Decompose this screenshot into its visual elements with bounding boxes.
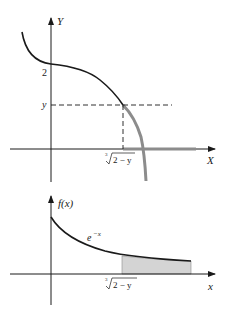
top-tick-2-label: 2: [42, 67, 47, 78]
top-y-axis-label: Y: [57, 15, 65, 27]
svg-text:−x: −x: [93, 230, 102, 238]
bottom-x-tick-cube-root-label: 3 2 − y: [105, 277, 137, 290]
top-x-tick-cube-root-label: 3 2 − y: [105, 152, 135, 165]
bottom-y-axis-label: f(x): [58, 197, 74, 210]
top-inverse-curve-highlight: [123, 105, 146, 181]
top-tick-y-label: y: [41, 99, 47, 110]
svg-text:e: e: [87, 232, 92, 243]
bottom-x-axis-label: x: [207, 280, 213, 292]
top-x-axis-label: X: [206, 154, 215, 166]
bottom-plot: f(x) x e −x 3 2 − y: [10, 196, 215, 305]
svg-text:3: 3: [105, 277, 108, 282]
top-plot: Y X 2 y 3 2 − y: [10, 15, 215, 182]
svg-text:2 − y: 2 − y: [113, 280, 132, 290]
bottom-exp-decay-curve: [51, 217, 191, 261]
bottom-curve-label: e −x: [87, 230, 102, 243]
svg-text:2 − y: 2 − y: [113, 155, 132, 165]
svg-text:3: 3: [105, 152, 108, 157]
top-cubic-curve: [22, 32, 123, 105]
